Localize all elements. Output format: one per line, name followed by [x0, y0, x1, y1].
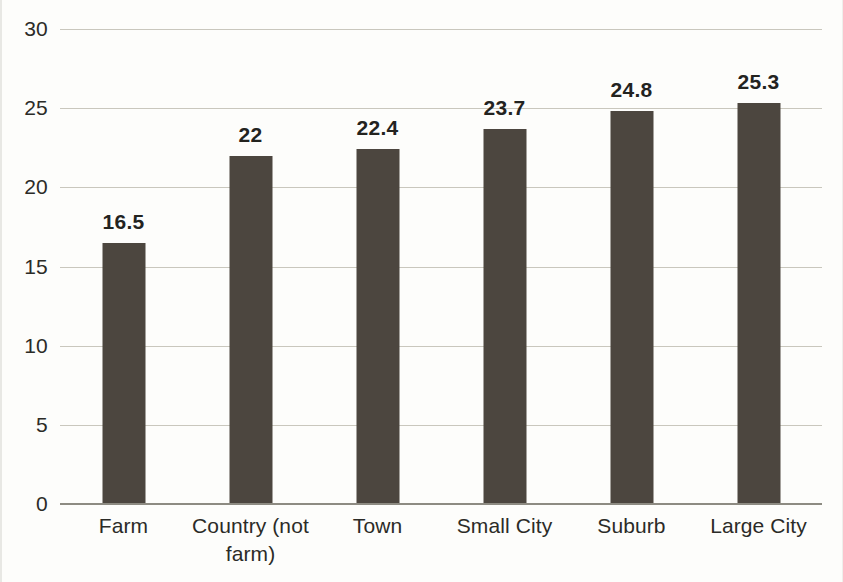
- bar-value-label: 23.7: [483, 96, 525, 120]
- x-axis-tick-label: Small City: [441, 512, 568, 540]
- x-axis-tick-text: Country (not farm): [187, 512, 314, 568]
- bar: [737, 103, 780, 504]
- bar: [610, 111, 653, 504]
- x-axis-tick-label: Large City: [695, 512, 822, 540]
- bar-value-label: 25.3: [737, 70, 779, 94]
- bar-slot: 24.8: [568, 29, 695, 504]
- x-axis-tick-text: Town: [314, 512, 441, 540]
- y-axis-tick-label: 30: [4, 17, 48, 41]
- bar: [229, 156, 272, 504]
- x-axis-tick-label: Suburb: [568, 512, 695, 540]
- x-axis-line: [60, 503, 822, 505]
- bar-value-label: 16.5: [102, 210, 144, 234]
- bar: [483, 129, 526, 504]
- x-axis-tick-text: Suburb: [568, 512, 695, 540]
- bar-slot: 25.3: [695, 29, 822, 504]
- bar-slot: 22.4: [314, 29, 441, 504]
- bar-slot: 22: [187, 29, 314, 504]
- y-axis-tick-label: 0: [4, 492, 48, 516]
- y-axis-tick-label: 20: [4, 175, 48, 199]
- x-axis-tick-label: Town: [314, 512, 441, 540]
- bar: [102, 243, 145, 504]
- y-axis-tick-label: 15: [4, 255, 48, 279]
- bar-chart: 302520151050 16.52222.423.724.825.3 Farm…: [0, 0, 843, 582]
- bar-slot: 23.7: [441, 29, 568, 504]
- y-axis-tick-label: 10: [4, 334, 48, 358]
- bar-value-label: 22.4: [356, 116, 398, 140]
- y-axis-tick-label: 25: [4, 96, 48, 120]
- x-axis-tick-label: Country (not farm): [187, 512, 314, 568]
- y-axis-tick-label: 5: [4, 413, 48, 437]
- x-axis: FarmCountry (not farm)TownSmall CitySubu…: [60, 512, 822, 576]
- x-axis-tick-text: Large City: [695, 512, 822, 540]
- x-axis-tick-text: Small City: [441, 512, 568, 540]
- x-axis-tick-label: Farm: [60, 512, 187, 540]
- plot-area: 16.52222.423.724.825.3: [60, 29, 822, 504]
- bar: [356, 149, 399, 504]
- bar-value-label: 22: [239, 123, 263, 147]
- bar-slot: 16.5: [60, 29, 187, 504]
- x-axis-tick-text: Farm: [60, 512, 187, 540]
- y-axis: 302520151050: [2, 29, 48, 504]
- bar-value-label: 24.8: [610, 78, 652, 102]
